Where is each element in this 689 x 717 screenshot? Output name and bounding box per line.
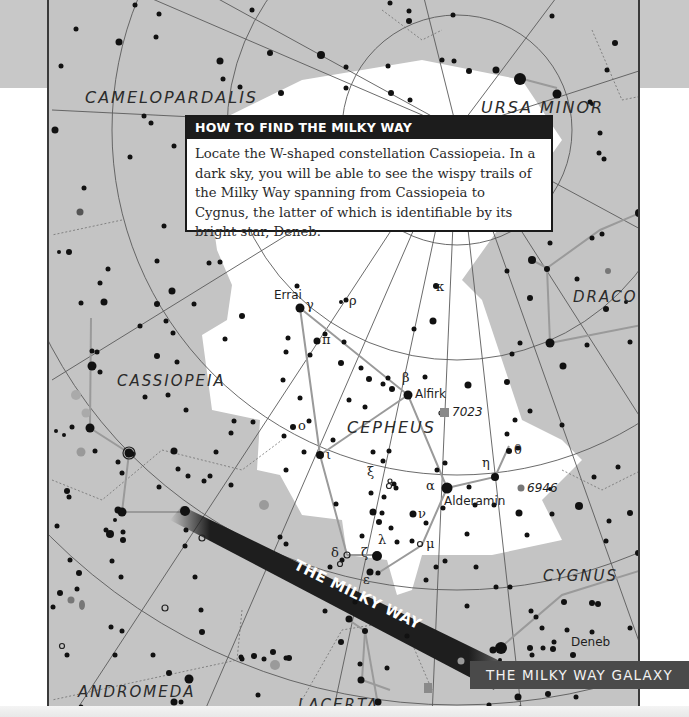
greek-beta: β [402,370,410,385]
greek-pi: π [322,332,331,347]
greek-omicron: ο [298,418,306,433]
label-andromeda: ANDROMEDA [78,683,196,701]
label-draco: DRACO [573,288,638,306]
greek-alpha: α [426,478,435,493]
info-box-title: HOW TO FIND THE MILKY WAY [187,117,551,139]
greek-mu: μ [426,536,434,551]
greek-epsilon: ε [363,572,370,587]
label-camelopardalis: CAMELOPARDALIS [85,88,258,107]
greek-delta: δ [331,545,339,560]
label-alderamin: Alderamin [444,494,505,508]
label-cygnus: CYGNUS [543,567,618,585]
info-box: HOW TO FIND THE MILKY WAY Locate the W-s… [185,115,553,232]
greek-rho: ρ [349,293,357,308]
greek-gamma: γ [306,297,314,312]
greek-zeta: ζ [361,545,368,560]
galaxy-tag: THE MILKY WAY GALAXY [470,661,689,689]
label-ngc7023: 7023 [452,405,483,419]
greek-nu: ν [418,506,426,521]
greek-eta: η [482,455,490,470]
label-ngc6946: 6946 [527,481,558,495]
bottom-edge [0,706,689,717]
greek-theta: θ [514,442,522,457]
greek-lambda: λ [378,532,386,547]
label-cassiopeia: CASSIOPEIA [117,372,226,390]
label-alfirk: Alfirk [415,387,446,401]
star-map: CAMELOPARDALIS URSA MINOR DRACO CASSIOPE… [47,0,640,717]
greek-xi: ξ [367,464,374,479]
label-cepheus: CEPHEUS [347,418,436,437]
label-deneb: Deneb [571,635,610,649]
label-errai: Errai [274,288,302,302]
greek-iota: ι [326,447,331,462]
greek-kappa: κ [436,279,444,294]
info-box-body: Locate the W-shaped constellation Cassio… [187,139,551,242]
